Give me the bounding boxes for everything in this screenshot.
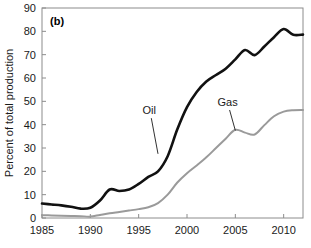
y-axis-title: Percent of total production [3,49,15,177]
y-axis-tick-label: 80 [24,25,36,37]
series-label-gas: Gas [218,96,239,108]
x-axis-tick-label: 1995 [126,224,150,236]
x-axis-tick-label: 2005 [223,224,247,236]
y-axis-tick-label: 20 [24,165,36,177]
y-axis-tick-label: 30 [24,142,36,154]
panel-label: (b) [50,15,64,27]
x-axis-tick-label: 1985 [30,224,54,236]
y-axis-tick-label: 50 [24,95,36,107]
chart-figure: 0102030405060708090198519901995200020052… [0,0,311,248]
line-chart: 0102030405060708090198519901995200020052… [0,0,311,248]
series-label-oil: Oil [143,104,156,116]
x-axis-tick-label: 2010 [271,224,295,236]
x-axis-tick-label: 1990 [78,224,102,236]
plot-frame [42,8,303,218]
y-axis-tick-label: 90 [24,2,36,14]
y-axis-tick-label: 60 [24,72,36,84]
y-axis-tick-label: 40 [24,119,36,131]
y-axis-tick-label: 10 [24,189,36,201]
y-axis-tick-label: 70 [24,49,36,61]
x-axis-tick-label: 2000 [175,224,199,236]
y-axis-tick-label: 0 [30,212,36,224]
